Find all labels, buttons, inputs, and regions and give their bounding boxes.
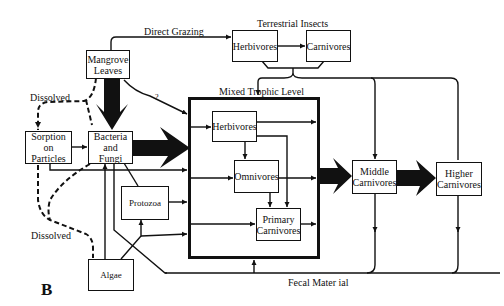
mixed-herbivores-node: Herbivores xyxy=(212,111,257,142)
mixed-omnivores-node: Omnivores xyxy=(234,160,279,193)
algae-node: Algae xyxy=(88,259,134,291)
mixed-trophic-level-label: Mixed Trophic Level xyxy=(219,86,304,97)
middle-carnivores-node: Middle Carnivores xyxy=(352,160,397,194)
higher-carnivores-node: Higher Carnivores xyxy=(436,162,482,196)
dissolved-top-label: Dissolved xyxy=(30,92,70,103)
terrestrial-insects-label: Terrestrial Insects xyxy=(257,18,328,29)
fecal-material-label: Fecal Mater ial xyxy=(288,277,349,288)
terrestrial-carnivores-node: Carnivores xyxy=(306,30,351,62)
terrestrial-herbivores-node: Herbivores xyxy=(232,30,278,62)
panel-label: B xyxy=(41,280,52,300)
bacteria-fungi-node: Bacteria and Fungi xyxy=(88,131,133,164)
question-label: ? xyxy=(155,92,159,103)
mangrove-leaves-node: Mangrove Leaves xyxy=(86,50,130,79)
sorption-on-particles-node: Sorption on Particles xyxy=(25,131,72,164)
mixed-primary-carnivores-node: Primary Carnivores xyxy=(256,208,301,241)
protozoa-node: Protozoa xyxy=(121,186,169,220)
direct-grazing-label: Direct Grazing xyxy=(144,26,204,37)
dissolved-bottom-label: Dissolved xyxy=(31,230,71,241)
